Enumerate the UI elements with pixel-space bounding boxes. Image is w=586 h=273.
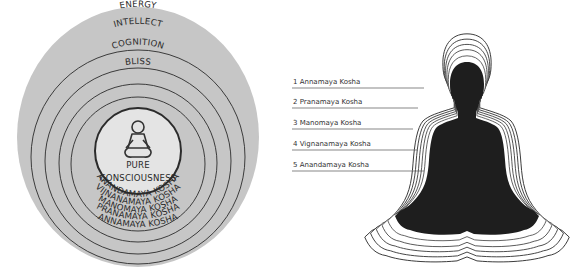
center-label-line1: PURE <box>126 160 150 170</box>
kosha-label-4: 4 Vignanamaya Kosha <box>293 140 371 148</box>
koshas-illustration: PURE CONSCIOUSNESS BODY ENERGY INTELLECT… <box>0 0 586 273</box>
concentric-koshas-diagram: PURE CONSCIOUSNESS BODY ENERGY INTELLECT… <box>17 0 259 267</box>
kosha-label-5: 5 Anandamaya Kosha <box>293 161 369 169</box>
kosha-label-3: 3 Manomaya Kosha <box>293 119 361 127</box>
kosha-label-2: 2 Pranamaya Kosha <box>293 98 362 106</box>
kosha-label-1: 1 Annamaya Kosha <box>293 78 360 86</box>
ring-label-bliss: BLISS <box>124 56 151 67</box>
silhouette-koshas-diagram: 1 Annamaya Kosha 2 Pranamaya Kosha 3 Man… <box>292 34 569 262</box>
